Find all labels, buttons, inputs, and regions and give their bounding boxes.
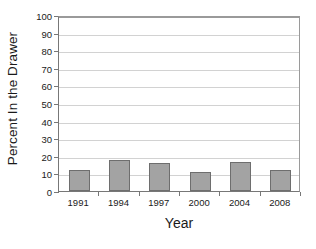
x-axis-tick-label: 1991 (68, 197, 89, 208)
y-axis-tick-label: 20 (41, 151, 52, 162)
y-axis-tick-label: 90 (41, 28, 52, 39)
y-axis-title-text: Percent In the Drawer (6, 31, 21, 164)
bar-1997 (149, 163, 170, 191)
x-axis-tick-mark (139, 192, 140, 196)
x-axis-title: Year (58, 215, 300, 231)
bar-series (59, 17, 299, 191)
x-axis-tick-label: 2008 (269, 197, 290, 208)
x-axis-tick-mark (260, 192, 261, 196)
y-axis-tick-label: 40 (41, 116, 52, 127)
x-axis-tick-mark (219, 192, 220, 196)
bar-2008 (270, 170, 291, 191)
bar-1991 (69, 170, 90, 191)
y-axis-tick-label: 100 (36, 11, 52, 22)
bar-1994 (109, 160, 130, 191)
x-axis-tick-label: 2000 (189, 197, 210, 208)
y-axis-tick-label: 50 (41, 99, 52, 110)
x-axis-tick-label: 1994 (108, 197, 129, 208)
x-axis-tick-mark (300, 192, 301, 196)
y-axis-tick-label: 80 (41, 46, 52, 57)
x-axis-tick-label: 2004 (229, 197, 250, 208)
y-axis-tick-label: 70 (41, 63, 52, 74)
bar-2000 (190, 172, 211, 191)
plot-area (58, 16, 300, 192)
y-axis-tick-label: 60 (41, 81, 52, 92)
bar-chart-figure: Percent In the Drawer 010203040506070809… (0, 0, 316, 249)
x-axis-tick-mark (179, 192, 180, 196)
y-axis-tick-label: 10 (41, 169, 52, 180)
x-axis-tick-mark (98, 192, 99, 196)
y-axis-tick-label: 30 (41, 134, 52, 145)
bar-2004 (230, 162, 251, 191)
x-axis-tick-labels: 199119941997200020042008 (58, 197, 300, 213)
x-axis-tick-label: 1997 (148, 197, 169, 208)
y-axis-title: Percent In the Drawer (0, 0, 26, 196)
